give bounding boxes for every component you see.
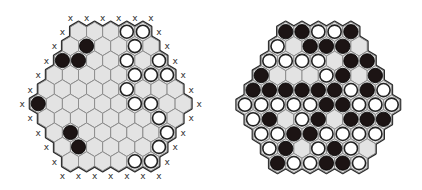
black-stone [336,39,350,53]
edge-x-mark: x [19,99,25,109]
white-stone [136,25,149,38]
edge-x-mark: x [108,171,114,181]
black-stone [279,141,293,155]
edge-x-mark: x [148,13,154,23]
right-hex-board [237,22,400,173]
black-stone [279,25,293,39]
hex-cell[interactable] [62,152,78,171]
edge-x-mark: x [197,99,203,109]
edge-x-mark: x [28,85,34,95]
black-stone [327,141,341,155]
white-stone [287,98,300,111]
white-stone [128,40,141,53]
white-stone [271,127,284,140]
black-stone [303,127,317,141]
black-stone [279,83,293,97]
black-stone [360,54,374,68]
edge-x-mark: x [100,13,106,23]
edge-x-mark: x [60,27,66,37]
white-stone [287,157,300,170]
white-stone [153,140,166,153]
white-stone [120,54,133,67]
edge-x-mark: x [164,157,170,167]
edge-x-mark: x [44,142,50,152]
edge-x-mark: x [132,13,138,23]
white-stone [336,127,349,140]
edge-x-mark: x [44,56,50,66]
white-stone [369,127,382,140]
black-stone [262,112,276,126]
black-stone [336,98,350,112]
hex-cell[interactable] [111,152,127,171]
edge-x-mark: x [172,142,178,152]
white-stone [304,157,317,170]
edge-x-mark: x [68,13,74,23]
white-stone [377,84,390,97]
black-stone [368,68,382,82]
black-stone [55,53,69,67]
white-stone [328,25,341,38]
white-stone [344,84,357,97]
white-stone [304,98,317,111]
hex-cell[interactable] [79,152,95,171]
edge-x-mark: x [124,171,130,181]
white-stone [120,25,133,38]
white-stone [263,142,276,155]
hex-cell[interactable] [95,152,111,171]
white-stone [128,97,141,110]
white-stone [312,25,325,38]
black-stone [270,156,284,170]
white-stone [144,68,157,81]
black-stone [311,83,325,97]
white-stone [161,68,174,81]
white-stone [320,127,333,140]
black-stone [327,83,341,97]
black-stone [319,98,333,112]
left-hex-board: xxxxxxxxxxxxxxxxxxxxxxxxxxxxxxxxx [19,13,202,181]
edge-x-mark: x [180,128,186,138]
white-stone [312,54,325,67]
white-stone [344,142,357,155]
black-stone [360,112,374,126]
black-stone [311,112,325,126]
white-stone [385,98,398,111]
edge-x-mark: x [76,171,82,181]
white-stone [144,155,157,168]
white-stone [120,83,133,96]
white-stone [352,127,365,140]
black-stone [336,156,350,170]
black-stone [319,39,333,53]
black-stone [262,83,276,97]
edge-x-mark: x [164,41,170,51]
edge-x-mark: x [140,171,146,181]
edge-x-mark: x [116,13,122,23]
game-canvas: xxxxxxxxxxxxxxxxxxxxxxxxxxxxxxxxx [0,0,422,190]
white-stone [271,98,284,111]
black-stone [254,68,268,82]
white-stone [153,54,166,67]
edge-x-mark: x [60,171,66,181]
white-stone [144,97,157,110]
white-stone [271,40,284,53]
black-stone [319,156,333,170]
black-stone [344,112,358,126]
white-stone [255,127,268,140]
black-stone [344,54,358,68]
white-stone [312,142,325,155]
edge-x-mark: x [28,113,34,123]
edge-x-mark: x [156,171,162,181]
white-stone [128,68,141,81]
white-stone [352,98,365,111]
white-stone [238,98,251,111]
white-stone [320,69,333,82]
white-stone [295,113,308,126]
white-stone [352,157,365,170]
white-stone [247,113,260,126]
black-stone [31,97,45,111]
black-stone [287,127,301,141]
black-stone [295,25,309,39]
black-stone [79,39,93,53]
black-stone [376,112,390,126]
white-stone [255,98,268,111]
black-stone [71,140,85,154]
